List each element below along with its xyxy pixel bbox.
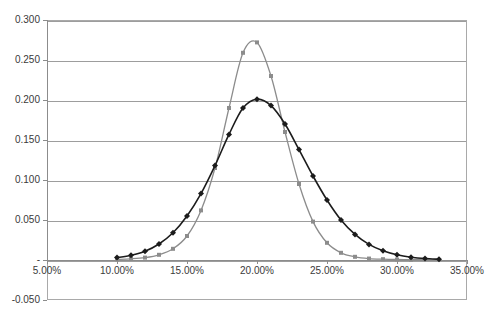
- gridline-0.250: [48, 61, 466, 62]
- x-axis-label-2: 15.00%: [157, 266, 217, 276]
- y-axis-label-zero: -: [37, 255, 40, 265]
- x-axis-label-1: 10.00%: [87, 266, 147, 276]
- y-axis-line: [47, 20, 48, 260]
- x-tick-mark: [327, 260, 328, 264]
- x-tick-mark: [187, 260, 188, 264]
- x-tick-mark: [467, 260, 468, 264]
- y-tick-mark: [43, 180, 47, 181]
- x-axis-label-6: 35.00%: [437, 266, 495, 276]
- gridline-0.150: [48, 141, 466, 142]
- x-tick-mark: [257, 260, 258, 264]
- y-axis-label-7: -0.050: [12, 295, 40, 305]
- gridline-0.100: [48, 181, 466, 182]
- x-axis-label-5: 30.00%: [367, 266, 427, 276]
- gridline-0.050: [48, 221, 466, 222]
- x-tick-mark: [47, 260, 48, 264]
- plot-area: [47, 20, 467, 300]
- y-tick-mark: [43, 300, 47, 301]
- x-axis-label-4: 25.00%: [297, 266, 357, 276]
- y-axis-label-1: 0.250: [15, 55, 40, 65]
- chart-container: 0.300 0.250 0.200 0.150 0.100 0.050 - -0…: [0, 0, 495, 323]
- y-tick-mark: [43, 140, 47, 141]
- y-tick-mark: [43, 60, 47, 61]
- y-axis-label-4: 0.100: [15, 175, 40, 185]
- x-tick-mark: [117, 260, 118, 264]
- y-tick-mark: [43, 100, 47, 101]
- y-tick-mark: [43, 220, 47, 221]
- gridline-0.200: [48, 101, 466, 102]
- x-axis-label-3: 20.00%: [227, 266, 287, 276]
- x-tick-mark: [397, 260, 398, 264]
- y-axis-label-5: 0.050: [15, 215, 40, 225]
- y-axis-label-0: 0.300: [15, 15, 40, 25]
- x-axis-label-0: 5.00%: [17, 266, 77, 276]
- y-tick-mark: [43, 20, 47, 21]
- y-axis-label-3: 0.150: [15, 135, 40, 145]
- gridline-0.300: [48, 21, 466, 22]
- y-axis-label-2: 0.200: [15, 95, 40, 105]
